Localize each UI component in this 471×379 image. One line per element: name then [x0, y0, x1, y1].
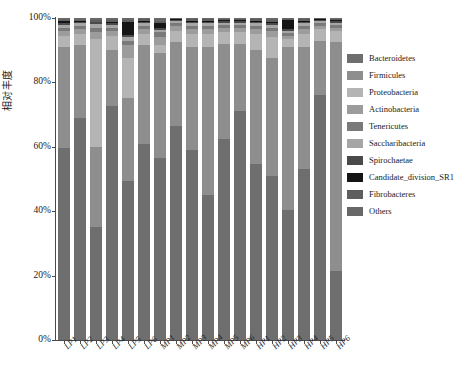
bar-hp5[interactable]	[314, 18, 326, 340]
bar-segment	[186, 150, 198, 340]
legend-swatch-icon	[347, 156, 363, 165]
legend-item-saccharibacteria[interactable]: Saccharibacteria	[347, 135, 471, 152]
bar-segment	[122, 58, 134, 98]
bar-segment	[154, 45, 166, 53]
bar-mp3[interactable]	[186, 18, 198, 340]
y-axis-title: 相对丰度	[0, 30, 14, 150]
bar-segment	[330, 42, 342, 271]
bar-segment	[282, 20, 294, 30]
bar-segment	[74, 45, 86, 117]
legend-label: Candidate_division_SR1	[369, 173, 454, 182]
bar-segment	[138, 34, 150, 45]
legend-label: Fibrobacteres	[369, 190, 415, 199]
bar-mp5[interactable]	[218, 18, 230, 340]
y-tick-mark	[52, 147, 55, 148]
bar-segment	[106, 106, 118, 339]
y-tick-mark	[52, 340, 55, 341]
bar-mp1[interactable]	[154, 18, 166, 340]
legend-label: Bacteroidetes	[369, 54, 415, 63]
y-tick-mark	[52, 276, 55, 277]
bar-lp1[interactable]	[58, 18, 70, 340]
legend-item-proteobacteria[interactable]: Proteobacteria	[347, 84, 471, 101]
bar-segment	[90, 147, 102, 228]
bar-segment	[266, 176, 278, 340]
legend-item-actinobacteria[interactable]: Actinobacteria	[347, 101, 471, 118]
y-tick-label: 80%	[18, 76, 51, 86]
bar-segment	[202, 34, 214, 47]
bar-segment	[170, 31, 182, 42]
bar-segment	[202, 47, 214, 195]
y-tick-label: 100%	[18, 12, 51, 22]
legend-item-others[interactable]: Others	[347, 203, 471, 220]
bar-segment	[90, 39, 102, 147]
bar-lp2[interactable]	[74, 18, 86, 340]
legend-swatch-icon	[347, 173, 363, 182]
bar-hp4[interactable]	[298, 18, 310, 340]
legend-item-firmicules[interactable]: Firmicules	[347, 67, 471, 84]
bar-segment	[234, 111, 246, 340]
legend-label: Others	[369, 207, 392, 216]
bar-lp6[interactable]	[138, 18, 150, 340]
bar-segment	[250, 164, 262, 339]
bar-segment	[106, 50, 118, 106]
bar-lp3[interactable]	[90, 18, 102, 340]
bar-segment	[58, 148, 70, 340]
bar-segment	[122, 181, 134, 340]
legend-swatch-icon	[347, 122, 363, 131]
bar-hp6[interactable]	[330, 18, 342, 340]
y-tick-label: 60%	[18, 141, 51, 151]
y-tick-mark	[52, 211, 55, 212]
legend-item-candidate-division-sr1[interactable]: Candidate_division_SR1	[347, 169, 471, 186]
bar-segment	[202, 195, 214, 340]
plot-area	[56, 18, 344, 340]
bar-segment	[122, 45, 134, 58]
legend-item-spirochaetae[interactable]: Spirochaetae	[347, 152, 471, 169]
bar-segment	[154, 37, 166, 45]
legend-item-tenericutes[interactable]: Tenericutes	[347, 118, 471, 135]
bar-segment	[154, 53, 166, 158]
bar-segment	[298, 169, 310, 340]
bar-segment	[122, 22, 134, 35]
bar-mp4[interactable]	[202, 18, 214, 340]
legend-label: Actinobacteria	[369, 105, 419, 114]
bar-hp3[interactable]	[282, 18, 294, 340]
bar-segment	[186, 34, 198, 47]
y-tick-label: 20%	[18, 270, 51, 280]
legend-label: Proteobacteria	[369, 88, 418, 97]
bar-segment	[74, 118, 86, 340]
bar-segment	[154, 158, 166, 340]
bar-segment	[314, 29, 326, 40]
legend: BacteroidetesFirmiculesProteobacteriaAct…	[347, 50, 471, 220]
bar-mp6[interactable]	[234, 18, 246, 340]
bar-segment	[298, 34, 310, 47]
bar-segment	[330, 271, 342, 340]
legend-swatch-icon	[347, 139, 363, 148]
bar-segment	[122, 98, 134, 180]
bar-lp5[interactable]	[122, 18, 134, 340]
bar-hp1[interactable]	[250, 18, 262, 340]
bar-mp2[interactable]	[170, 18, 182, 340]
y-tick-mark	[52, 18, 55, 19]
bar-segment	[330, 31, 342, 42]
bar-segment	[106, 36, 118, 50]
bar-lp4[interactable]	[106, 18, 118, 340]
bar-segment	[314, 95, 326, 340]
bar-segment	[298, 47, 310, 169]
bar-segment	[58, 36, 70, 47]
legend-item-bacteroidetes[interactable]: Bacteroidetes	[347, 50, 471, 67]
y-tick-mark	[52, 82, 55, 83]
bar-hp2[interactable]	[266, 18, 278, 340]
legend-item-fibrobacteres[interactable]: Fibrobacteres	[347, 186, 471, 203]
bar-segment	[218, 32, 230, 43]
bar-segment	[282, 210, 294, 340]
legend-label: Tenericutes	[369, 122, 408, 131]
bar-segment	[170, 126, 182, 340]
bar-segment	[90, 227, 102, 340]
bar-segment	[138, 144, 150, 340]
legend-swatch-icon	[347, 71, 363, 80]
legend-label: Saccharibacteria	[369, 139, 425, 148]
bar-segment	[234, 44, 246, 112]
bar-segment	[218, 44, 230, 139]
bar-segment	[266, 37, 278, 58]
bar-segment	[282, 47, 294, 210]
